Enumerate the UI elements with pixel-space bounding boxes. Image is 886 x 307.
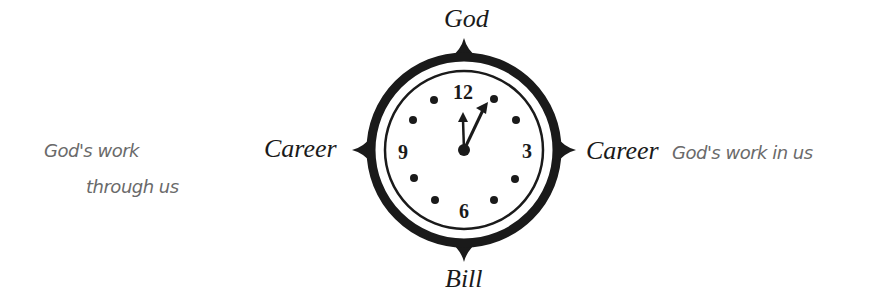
number-9: 9 — [398, 141, 408, 163]
number-6: 6 — [459, 200, 469, 222]
label-bottom-bill: Bill — [445, 264, 483, 294]
label-left-career: Career — [264, 134, 337, 164]
handwritten-note-left-line2: through us — [86, 176, 179, 197]
handwritten-note-right: God's work in us — [672, 142, 813, 163]
number-12: 12 — [453, 81, 473, 103]
label-top-god: God — [444, 4, 489, 34]
center-pivot — [458, 144, 470, 156]
label-right-career: Career — [586, 136, 659, 166]
handwritten-note-left-line1: God's work — [44, 140, 139, 161]
number-3: 3 — [522, 140, 532, 162]
